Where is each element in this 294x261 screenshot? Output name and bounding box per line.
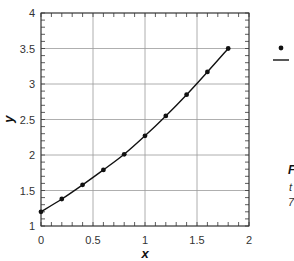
legend-dot-icon (279, 46, 284, 51)
data-point (205, 70, 210, 75)
y-tick-label: 3.5 (20, 43, 35, 55)
grid-lines (41, 13, 249, 226)
y-tick-label: 2 (29, 149, 35, 161)
data-point (101, 168, 106, 173)
data-point (226, 46, 231, 51)
legend (273, 46, 289, 60)
y-tick-label: 3 (29, 78, 35, 90)
y-tick-label: 4 (29, 7, 35, 19)
line-chart: 00.511.52 11.522.533.54 x y (0, 0, 294, 261)
y-tick-label: 2.5 (20, 114, 35, 126)
y-axis-title: y (1, 115, 16, 124)
data-point (59, 197, 64, 202)
data-point (143, 133, 148, 138)
x-tick-label: 0.5 (85, 234, 100, 246)
x-tick-label: 1 (142, 234, 148, 246)
data-point (39, 209, 44, 214)
x-tick-label: 1.5 (189, 234, 204, 246)
x-tick-label: 0 (38, 234, 44, 246)
y-tick-labels: 11.522.533.54 (20, 7, 35, 232)
y-tick-label: 1.5 (20, 185, 35, 197)
side-text-line3: 7 (288, 196, 294, 208)
curve-line (41, 49, 228, 212)
x-axis-title: x (140, 246, 149, 261)
data-point (184, 92, 189, 97)
y-tick-label: 1 (29, 220, 35, 232)
x-tick-label: 2 (246, 234, 252, 246)
side-text-line2: t (289, 181, 292, 193)
data-point (122, 152, 127, 157)
data-point (80, 182, 85, 187)
data-points (39, 46, 231, 214)
data-point (163, 114, 168, 119)
side-text-line1: F (288, 163, 294, 177)
x-tick-labels: 00.511.52 (38, 234, 252, 246)
